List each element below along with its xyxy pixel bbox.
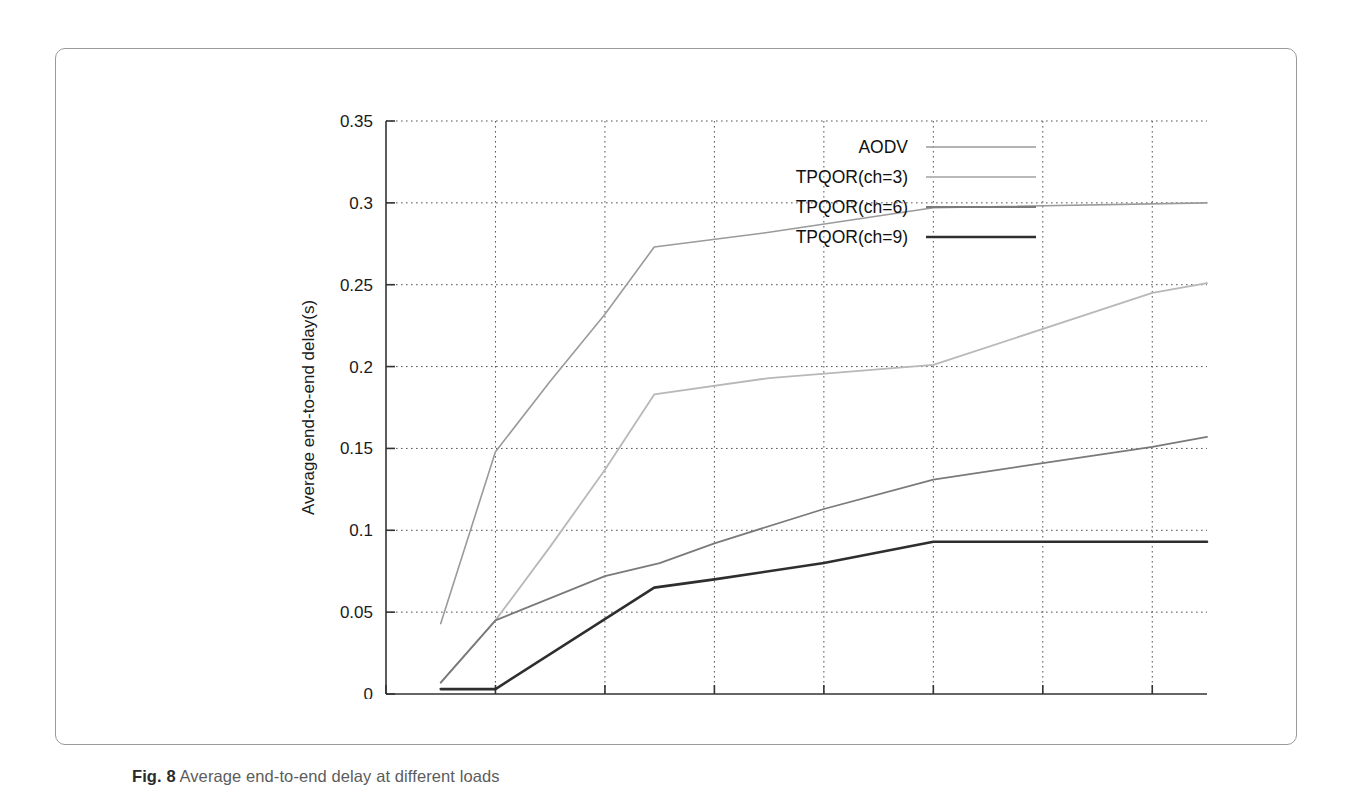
y-tick-label: 0.3 [349,194,373,213]
y-tick-label: 0.05 [340,603,373,622]
y-tick-label: 0 [364,685,373,699]
legend-label: TPQOR(ch=6) [796,197,908,217]
caption-text: Average end-to-end delay at different lo… [176,767,500,785]
figure-caption: Fig. 8 Average end-to-end delay at diffe… [132,767,500,786]
y-tick-label: 0.15 [340,439,373,458]
axis-ticks: 00.050.10.150.20.250.30.3502004006008001… [340,112,1171,699]
y-tick-label: 0.1 [349,521,373,540]
series-line-tpqor-ch-3 [441,283,1207,682]
series-line-aodv [441,203,1207,624]
caption-label: Fig. 8 [132,767,176,785]
y-axis-title: Average end-to-end delay(s) [299,300,318,515]
series-line-tpqor-ch-6 [441,437,1207,683]
legend-label: AODV [858,137,908,157]
legend-label: TPQOR(ch=3) [796,167,908,187]
y-tick-label: 0.35 [340,112,373,131]
chart-canvas: 00.050.10.150.20.250.30.3502004006008001… [236,59,1236,699]
figure-root: 00.050.10.150.20.250.30.3502004006008001… [0,0,1356,804]
y-tick-label: 0.2 [349,358,373,377]
figure-frame: 00.050.10.150.20.250.30.3502004006008001… [55,48,1297,745]
line-chart: 00.050.10.150.20.250.30.3502004006008001… [236,59,1236,699]
y-tick-label: 0.25 [340,276,373,295]
chart-legend: AODVTPQOR(ch=3)TPQOR(ch=6)TPQOR(ch=9) [796,137,1036,247]
legend-label: TPQOR(ch=9) [796,227,908,247]
